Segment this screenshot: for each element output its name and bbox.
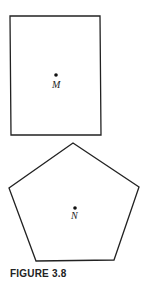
figure-diagram: M N	[0, 0, 155, 290]
point-n-label: N	[70, 210, 79, 221]
point-m-dot	[54, 73, 58, 77]
rectangle-shape: M	[10, 16, 101, 135]
figure-caption: FIGURE 3.8	[10, 268, 66, 279]
point-m-label: M	[51, 79, 61, 90]
pentagon-shape: N	[9, 143, 139, 261]
